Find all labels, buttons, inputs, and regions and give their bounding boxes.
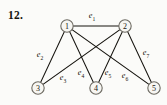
node-label-2: 2 bbox=[123, 22, 127, 31]
edges-layer bbox=[41, 26, 152, 84]
graph-node-3: 3 bbox=[32, 82, 44, 94]
node-label-3: 3 bbox=[36, 84, 40, 93]
graph-node-4: 4 bbox=[90, 82, 102, 94]
edge-label-e1: e1 bbox=[89, 11, 96, 23]
node-label-4: 4 bbox=[94, 84, 98, 93]
edge-label-e5: e5 bbox=[105, 68, 112, 80]
node-label-1: 1 bbox=[65, 22, 69, 31]
edge-label-e3: e3 bbox=[60, 73, 67, 85]
graph-node-5: 5 bbox=[148, 82, 160, 94]
graph-canvas: 12345 e1e2e3e4e5e6e7 bbox=[0, 0, 167, 105]
edge-label-e4: e4 bbox=[78, 68, 85, 80]
edge-label-e2: e2 bbox=[37, 50, 44, 62]
node-label-5: 5 bbox=[152, 84, 156, 93]
graph-node-2: 2 bbox=[119, 20, 131, 32]
edge-label-e7: e7 bbox=[143, 48, 150, 60]
edge-label-e6: e6 bbox=[122, 71, 129, 83]
graph-node-1: 1 bbox=[61, 20, 73, 32]
nodes-layer: 12345 bbox=[32, 20, 160, 94]
graph-figure: 12. 12345 e1e2e3e4e5e6e7 bbox=[0, 0, 167, 105]
